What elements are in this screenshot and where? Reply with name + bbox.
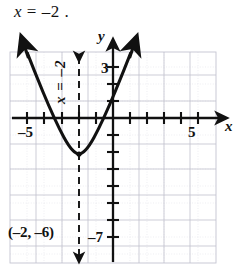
axis-of-symmetry-label: x = –2 — [52, 47, 74, 117]
vertex-point — [76, 151, 81, 156]
y-axis-label: y — [98, 28, 105, 45]
y-tick-label-3: 3 — [101, 60, 109, 77]
vertex-label: (–2, –6) — [8, 224, 54, 241]
parabola-figure: x = –2 . — [0, 0, 245, 270]
y-tick-label-neg7: –7 — [88, 229, 103, 246]
x-tick-label-neg5: –5 — [18, 124, 33, 141]
x-axis-label: x — [225, 118, 233, 135]
x-tick-label-5: 5 — [188, 124, 196, 141]
